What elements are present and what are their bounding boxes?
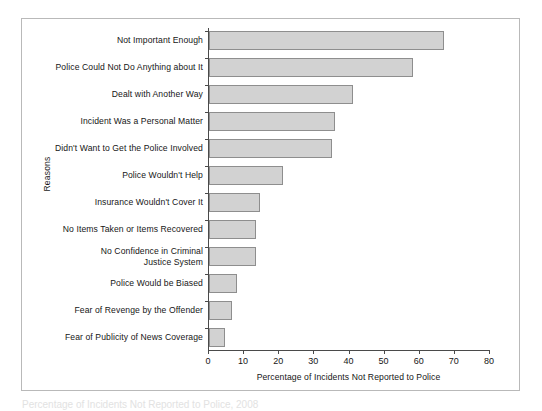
- category-label: No Confidence in Criminal Justice System: [13, 246, 203, 267]
- x-axis-tick-label: 20: [263, 356, 293, 366]
- x-axis-tick-label: 30: [298, 356, 328, 366]
- figure-caption: Percentage of Incidents Not Reported to …: [22, 399, 492, 411]
- chart-panel: Reasons Not Important EnoughPolice Could…: [21, 18, 520, 391]
- category-label: Incident Was a Personal Matter: [13, 116, 203, 127]
- category-label: Fear of Publicity of News Coverage: [13, 332, 203, 343]
- category-label: Police Could Not Do Anything about It: [13, 62, 203, 73]
- bar: [209, 193, 260, 212]
- x-axis-tick-label: 50: [369, 356, 399, 366]
- category-label: Police Would be Biased: [13, 278, 203, 289]
- bar: [209, 328, 225, 347]
- bar: [209, 301, 232, 320]
- bar: [209, 139, 332, 158]
- bar: [209, 85, 353, 104]
- x-axis-tick-label: 80: [474, 356, 504, 366]
- x-axis-tick-label: 60: [404, 356, 434, 366]
- x-axis-tick: [419, 350, 420, 354]
- category-label: Dealt with Another Way: [13, 89, 203, 100]
- x-axis-tick: [454, 350, 455, 354]
- plot-area: Not Important EnoughPolice Could Not Do …: [208, 28, 501, 356]
- bar: [209, 166, 283, 185]
- bar: [209, 274, 237, 293]
- category-label: Didn't Want to Get the Police Involved: [13, 143, 203, 154]
- x-axis-tick-label: 70: [439, 356, 469, 366]
- category-label: No Items Taken or Items Recovered: [13, 224, 203, 235]
- category-label: Insurance Wouldn't Cover It: [13, 197, 203, 208]
- x-axis-tick-label: 0: [193, 356, 223, 366]
- x-axis-title: Percentage of Incidents Not Reported to …: [208, 372, 489, 382]
- x-axis-tick-label: 40: [334, 356, 364, 366]
- bar: [209, 58, 413, 77]
- bar: [209, 247, 256, 266]
- x-axis-tick: [208, 350, 209, 354]
- category-label: Police Wouldn't Help: [13, 170, 203, 181]
- bar: [209, 112, 335, 131]
- category-label: Fear of Revenge by the Offender: [13, 305, 203, 316]
- x-axis-tick: [384, 350, 385, 354]
- x-axis-tick: [243, 350, 244, 354]
- x-axis-tick-label: 10: [228, 356, 258, 366]
- x-axis-tick: [489, 350, 490, 354]
- category-label: Not Important Enough: [13, 35, 203, 46]
- x-axis-tick: [349, 350, 350, 354]
- bar: [209, 31, 444, 50]
- x-axis-tick: [278, 350, 279, 354]
- x-axis-tick: [313, 350, 314, 354]
- bar: [209, 220, 256, 239]
